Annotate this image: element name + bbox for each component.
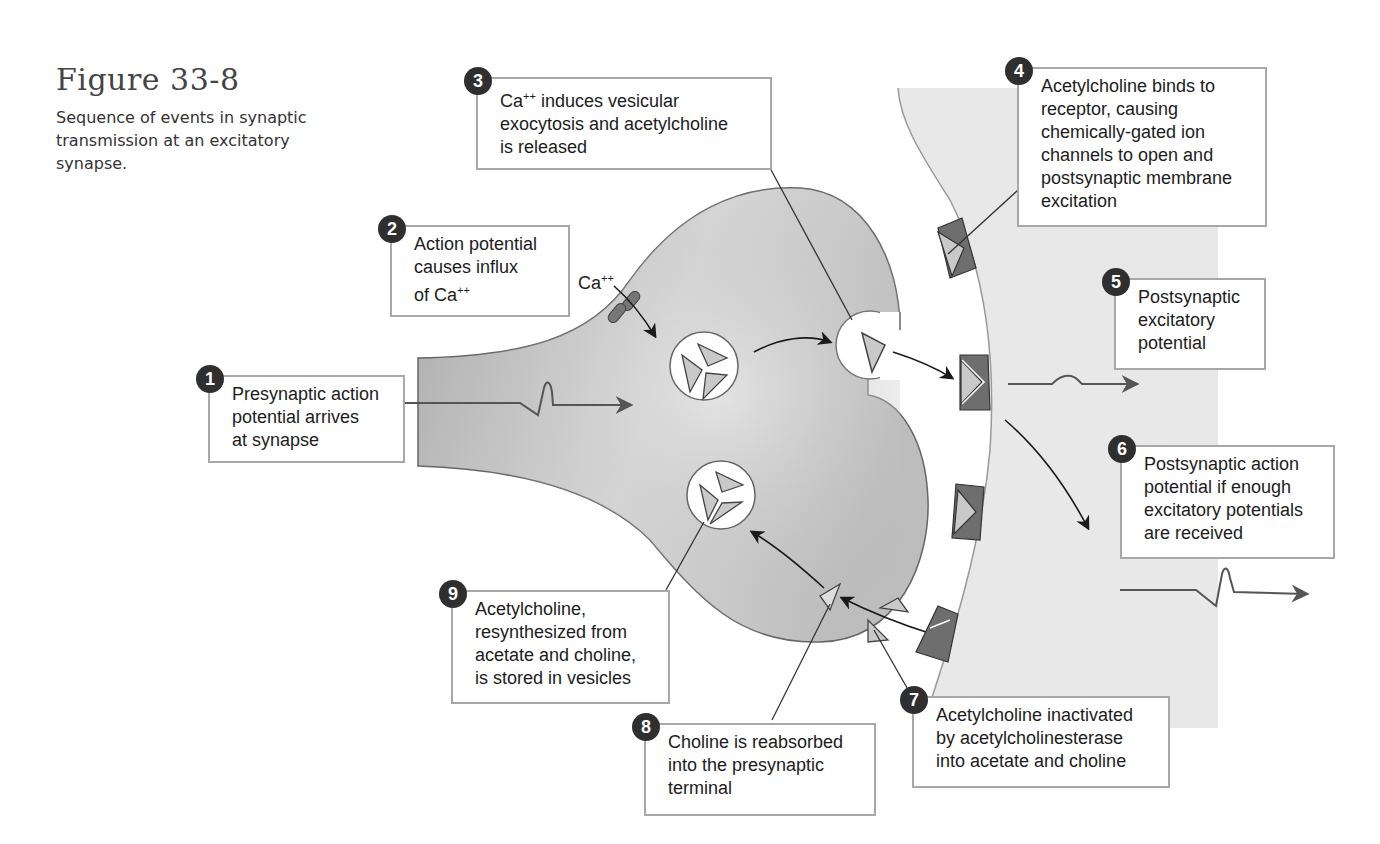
step-5-text: Postsynaptic excitatory potential: [1138, 286, 1254, 355]
synaptic-vesicle: [687, 461, 755, 529]
step-2-text: Action potential causes influx of Ca++: [414, 233, 558, 307]
step-9-callout: 9 Acetylcholine, resynthesized from acet…: [451, 590, 670, 704]
receptor: [960, 355, 990, 410]
step-4-badge: 4: [1005, 57, 1033, 85]
step-8-badge: 8: [632, 713, 660, 741]
step-6-badge: 6: [1108, 435, 1136, 463]
step-3-badge: 3: [464, 67, 492, 95]
step-7-text: Acetylcholine inactivated by acetylcholi…: [936, 704, 1158, 773]
figure-caption: Sequence of events in synaptic transmiss…: [56, 106, 316, 175]
receptor: [952, 484, 984, 540]
step-2-callout: 2 Action potential causes influx of Ca++: [390, 225, 570, 317]
step-1-badge: 1: [196, 365, 224, 393]
step-9-badge: 9: [439, 580, 467, 608]
step-5-badge: 5: [1102, 268, 1130, 296]
step-2-badge: 2: [378, 215, 406, 243]
step-9-text: Acetylcholine, resynthesized from acetat…: [475, 598, 658, 690]
step-3-callout: 3 Ca++ induces vesicular exocytosis and …: [476, 77, 772, 170]
step-1-text: Presynaptic action potential arrives at …: [232, 383, 393, 452]
step-8-text: Choline is reabsorbed into the presynapt…: [668, 731, 864, 800]
step-4-callout: 4 Acetylcholine binds to receptor, causi…: [1017, 67, 1267, 227]
step-8-callout: 8 Choline is reabsorbed into the presyna…: [644, 723, 876, 816]
step-6-text: Postsynaptic action potential if enough …: [1144, 453, 1323, 545]
step-7-callout: 7 Acetylcholine inactivated by acetylcho…: [912, 696, 1170, 788]
figure-title: Figure 33-8: [56, 62, 239, 97]
synaptic-vesicle: [670, 332, 738, 400]
step-4-text: Acetylcholine binds to receptor, causing…: [1041, 75, 1255, 213]
step-6-callout: 6 Postsynaptic action potential if enoug…: [1120, 445, 1335, 559]
step-5-callout: 5 Postsynaptic excitatory potential: [1114, 278, 1266, 370]
step-1-callout: 1 Presynaptic action potential arrives a…: [208, 375, 405, 463]
step-7-badge: 7: [900, 686, 928, 714]
step-3-text: Ca++ induces vesicular exocytosis and ac…: [500, 85, 760, 159]
calcium-ion-label: Ca++: [578, 272, 614, 294]
